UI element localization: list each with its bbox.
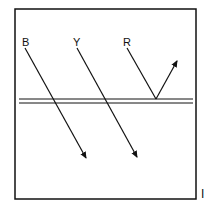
label-y: Y	[73, 37, 80, 48]
diagram-canvas	[0, 0, 207, 211]
ray-r-reflected	[156, 61, 177, 99]
label-r: R	[123, 37, 131, 48]
ray-r-incident	[127, 48, 156, 99]
corner-mark: I	[201, 188, 204, 200]
label-b: B	[22, 37, 29, 48]
frame-box	[15, 9, 196, 199]
